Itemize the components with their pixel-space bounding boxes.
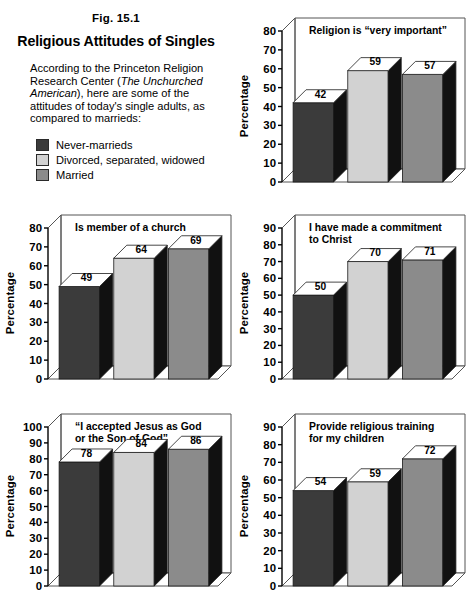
svg-text:80: 80	[263, 439, 276, 451]
svg-text:“I accepted Jesus as God: “I accepted Jesus as God	[75, 421, 201, 432]
bar-value-label: 70	[369, 247, 381, 258]
svg-text:0: 0	[270, 580, 276, 592]
bar-religion-very-important-0: 42	[293, 89, 346, 182]
bar-commitment-to-christ-0: 50	[293, 281, 346, 379]
svg-text:80: 80	[29, 453, 42, 465]
bar-value-label: 59	[369, 56, 381, 67]
svg-text:10: 10	[263, 562, 276, 574]
svg-text:30: 30	[263, 323, 276, 335]
svg-text:70: 70	[263, 256, 276, 268]
chart-panel-religion-very-important: Percentage 01020304050607080Religion is …	[236, 8, 468, 204]
svg-text:50: 50	[263, 492, 276, 504]
svg-text:70: 70	[263, 44, 276, 56]
svg-text:20: 20	[29, 548, 42, 560]
legend-label-never-marrieds: Never-marrieds	[56, 139, 132, 151]
bar-accepted-jesus-0: 78	[59, 448, 112, 586]
bar-member-of-church-1: 64	[114, 244, 167, 379]
svg-text:30: 30	[29, 316, 42, 328]
svg-text:40: 40	[263, 509, 276, 521]
bar-religion-very-important-2: 57	[402, 60, 455, 182]
y-axis-label-1: Percentage	[2, 205, 18, 401]
plot-area-3: 0102030405060708090100“I accepted Jesus …	[18, 404, 234, 608]
svg-text:50: 50	[29, 501, 42, 513]
bar-value-label: 86	[190, 435, 202, 446]
y-axis-label-4: Percentage	[236, 404, 252, 608]
svg-text:40: 40	[263, 306, 276, 318]
plot-area-4: 0102030405060708090Provide religious tra…	[252, 404, 468, 608]
legend: Never-marrieds Divorced, separated, wido…	[36, 138, 232, 182]
svg-text:10: 10	[263, 157, 276, 169]
svg-text:20: 20	[263, 545, 276, 557]
bar-value-label: 54	[315, 476, 327, 487]
bar-commitment-to-christ-1: 70	[348, 247, 401, 379]
svg-text:Is member of a church: Is member of a church	[75, 222, 186, 233]
svg-text:10: 10	[29, 354, 42, 366]
legend-item-divorced: Divorced, separated, widowed	[36, 153, 232, 167]
legend-swatch-divorced	[36, 154, 49, 166]
svg-text:50: 50	[263, 82, 276, 94]
svg-text:80: 80	[263, 239, 276, 251]
bar-religious-training-children-2: 72	[402, 445, 455, 586]
bar-value-label: 64	[135, 244, 147, 255]
figure-page: Fig. 15.1 Religious Attitudes of Singles…	[0, 0, 469, 612]
bar-value-label: 49	[81, 272, 93, 283]
svg-text:90: 90	[263, 421, 276, 433]
svg-text:40: 40	[29, 516, 42, 528]
svg-text:80: 80	[263, 25, 276, 37]
svg-text:90: 90	[29, 437, 42, 449]
svg-text:80: 80	[29, 222, 42, 234]
bar-commitment-to-christ-2: 71	[402, 246, 455, 379]
y-axis-label-0: Percentage	[236, 8, 252, 204]
svg-text:60: 60	[29, 260, 42, 272]
svg-text:70: 70	[263, 456, 276, 468]
bar-value-label: 69	[190, 235, 202, 246]
svg-text:to Christ: to Christ	[309, 234, 352, 245]
chart-panel-religious-training-children: Percentage 0102030405060708090Provide re…	[236, 404, 468, 608]
svg-text:0: 0	[36, 373, 42, 385]
bar-value-label: 42	[315, 89, 327, 100]
chart-panel-accepted-jesus: Percentage 0102030405060708090100“I acce…	[2, 404, 234, 608]
svg-text:60: 60	[263, 474, 276, 486]
bar-value-label: 57	[424, 60, 436, 71]
bar-accepted-jesus-2: 86	[168, 435, 221, 586]
svg-text:0: 0	[270, 176, 276, 188]
svg-text:30: 30	[263, 119, 276, 131]
svg-text:100: 100	[23, 421, 42, 433]
bar-value-label: 50	[315, 281, 327, 292]
bar-value-label: 59	[369, 468, 381, 479]
bar-value-label: 71	[424, 246, 436, 257]
chart-panel-member-of-church: Percentage 01020304050607080Is member of…	[2, 205, 234, 401]
y-axis-label-2: Percentage	[236, 205, 252, 401]
svg-text:70: 70	[29, 241, 42, 253]
legend-swatch-married	[36, 169, 49, 181]
svg-text:40: 40	[29, 298, 42, 310]
svg-text:30: 30	[263, 527, 276, 539]
svg-text:50: 50	[29, 279, 42, 291]
plot-area-0: 01020304050607080Religion is “very impor…	[252, 8, 468, 204]
plot-area-1: 01020304050607080Is member of a church49…	[18, 205, 234, 401]
svg-text:40: 40	[263, 101, 276, 113]
svg-text:Religion is “very important”: Religion is “very important”	[309, 25, 447, 36]
intro-block: Fig. 15.1 Religious Attitudes of Singles…	[0, 0, 232, 200]
legend-label-married: Married	[56, 169, 94, 181]
bar-accepted-jesus-1: 84	[114, 438, 167, 586]
bar-value-label: 72	[424, 445, 436, 456]
svg-text:for my children: for my children	[309, 433, 384, 444]
bar-religion-very-important-1: 59	[348, 56, 401, 182]
bar-value-label: 84	[135, 438, 147, 449]
bar-religious-training-children-0: 54	[293, 476, 346, 586]
bar-member-of-church-0: 49	[59, 272, 112, 379]
svg-text:10: 10	[263, 356, 276, 368]
svg-text:20: 20	[263, 339, 276, 351]
legend-item-married: Married	[36, 168, 232, 182]
figure-number: Fig. 15.1	[0, 12, 232, 24]
svg-text:0: 0	[36, 580, 42, 592]
svg-text:50: 50	[263, 289, 276, 301]
svg-text:60: 60	[29, 485, 42, 497]
bar-religious-training-children-1: 59	[348, 468, 401, 586]
svg-text:0: 0	[270, 373, 276, 385]
chart-panel-commitment-to-christ: Percentage 0102030405060708090I have mad…	[236, 205, 468, 401]
svg-text:I have made a commitment: I have made a commitment	[309, 222, 442, 233]
svg-text:Provide religious training: Provide religious training	[309, 421, 434, 432]
legend-label-divorced: Divorced, separated, widowed	[56, 154, 205, 166]
